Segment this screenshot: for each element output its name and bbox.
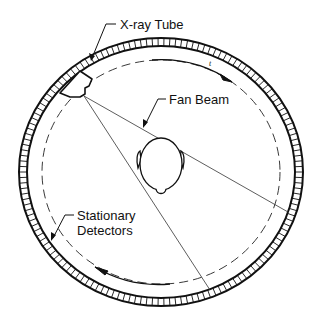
label-stationary: Stationary xyxy=(77,208,136,223)
label-fan-beam: Fan Beam xyxy=(169,92,229,107)
small-mark: t xyxy=(209,59,212,68)
label-detectors: Detectors xyxy=(77,223,133,238)
ct-scanner-diagram: t X-ray Tube Fan Beam Stationary Detecto… xyxy=(0,0,320,327)
label-x-ray-tube: X-ray Tube xyxy=(120,17,184,32)
patient-head xyxy=(137,138,184,194)
leader-stationary-detectors xyxy=(51,215,74,241)
leader-fan-beam xyxy=(143,99,166,128)
rotation-arrow-top xyxy=(152,60,232,82)
rotation-arrow-bottom xyxy=(95,267,170,284)
